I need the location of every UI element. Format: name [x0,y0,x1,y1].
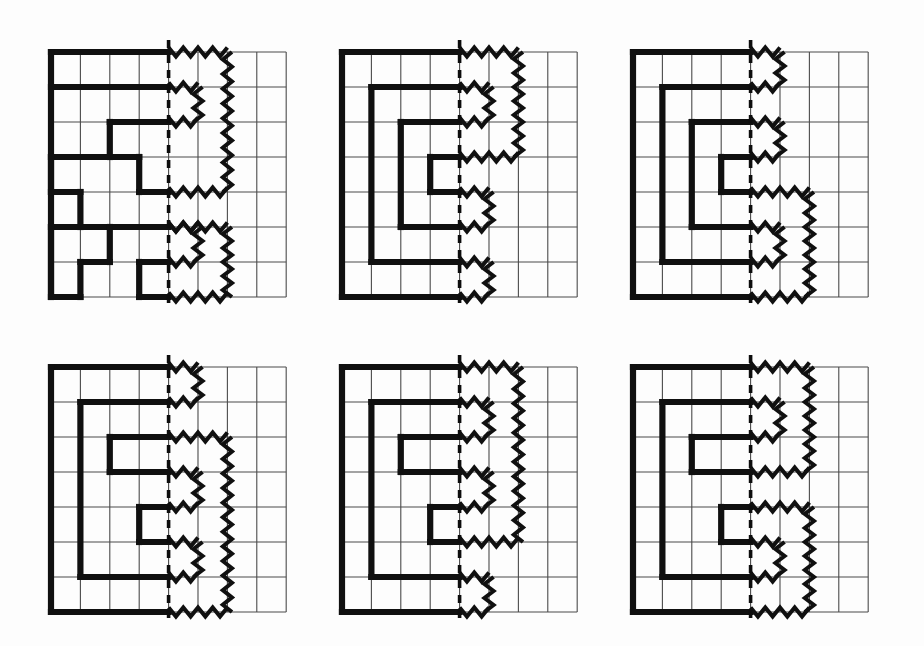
solid-figure [633,52,751,297]
zigzag-segment [775,227,784,262]
zigzag-segment [193,367,202,402]
mirrored-zigzag-figure [751,47,814,301]
worksheet-sheet [0,0,924,646]
zigzag-segment [484,402,493,437]
zigzag-segment [193,472,202,507]
panel-canvas [619,38,882,311]
panel-canvas [619,353,882,626]
zigzag-segment [484,192,493,227]
grid-panel-5 [328,353,591,626]
zigzag-segment [775,402,784,437]
zigzag-segment [193,542,202,577]
panel-canvas [328,353,591,626]
grid-panel-3 [619,38,882,311]
zigzag-segment [775,122,784,157]
zigzag-segment [805,507,814,612]
mirrored-zigzag-figure [751,362,814,616]
mirrored-zigzag-figure [169,47,232,301]
mirrored-zigzag-figure [169,362,232,616]
mirrored-zigzag-figure [460,362,523,616]
zigzag-segment [193,87,202,122]
zigzag-segment [484,262,493,297]
zigzag-segment [805,367,814,472]
grid-panel-4 [37,353,300,626]
zigzag-segment [775,542,784,577]
panel-canvas [37,38,300,311]
mirrored-zigzag-figure [460,47,523,301]
grid-panel-1 [37,38,300,311]
zigzag-segment [484,472,493,507]
grid-panel-2 [328,38,591,311]
zigzag-segment [805,192,814,297]
zigzag-segment [484,577,493,612]
zigzag-segment [514,52,523,157]
grid-panel-6 [619,353,882,626]
panel-canvas [328,38,591,311]
panel-canvas [37,353,300,626]
zigzag-segment [484,87,493,122]
zigzag-segment [775,52,784,87]
zigzag-segment [193,227,202,262]
solid-figure [342,52,460,297]
